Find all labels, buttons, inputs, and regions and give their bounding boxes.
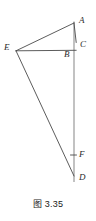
segment-EA (16, 23, 74, 51)
segment-ED (16, 51, 74, 176)
figure-container: A C B E F D 图 3.35 (0, 0, 96, 221)
vertex-label-b: B (64, 50, 70, 59)
figure-caption: 图 3.35 (0, 199, 96, 210)
vertex-label-e: E (4, 43, 10, 52)
vertex-label-d: D (79, 173, 86, 182)
geometry-diagram (0, 0, 96, 221)
vertex-label-f: F (79, 150, 85, 159)
vertex-label-c: C (80, 40, 86, 49)
vertex-label-a: A (79, 16, 85, 25)
